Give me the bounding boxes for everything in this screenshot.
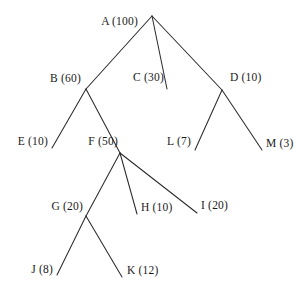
tree-node-g: G (20) <box>51 201 83 213</box>
tree-node-f: F (50) <box>88 136 118 148</box>
tree-edge-f-g <box>86 153 120 216</box>
tree-node-i: I (20) <box>201 200 228 212</box>
tree-edge-b-e <box>52 89 86 148</box>
tree-node-l: L (7) <box>167 136 191 148</box>
tree-edge-g-j <box>57 216 86 275</box>
tree-node-j: J (8) <box>31 264 53 276</box>
tree-edge-f-h <box>120 153 137 214</box>
tree-node-e: E (10) <box>18 136 48 148</box>
tree-edges-layer <box>0 0 303 297</box>
tree-node-c: C (30) <box>133 72 164 84</box>
tree-edge-g-k <box>86 216 122 277</box>
tree-node-a: A (100) <box>101 16 138 28</box>
tree-node-k: K (12) <box>127 265 159 277</box>
tree-diagram: A (100)B (60)C (30)D (10)E (10)F (50)L (… <box>0 0 303 297</box>
tree-edge-d-l <box>195 90 222 150</box>
tree-edge-d-m <box>222 90 262 150</box>
tree-node-h: H (10) <box>141 202 173 214</box>
tree-node-m: M (3) <box>266 138 294 150</box>
tree-node-d: D (10) <box>230 72 262 84</box>
tree-node-b: B (60) <box>50 73 81 85</box>
